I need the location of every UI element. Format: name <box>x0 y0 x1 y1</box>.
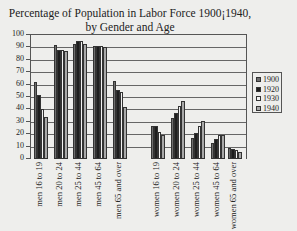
legend-item: 1930 <box>256 94 281 104</box>
bar-1940 <box>161 135 164 159</box>
x-tick-label: men 45 to 64 <box>94 162 103 207</box>
chart-subtitle: by Gender and Age <box>0 20 260 34</box>
x-tick-label: women 16 to 19 <box>152 162 161 217</box>
y-tick-mark <box>26 84 30 85</box>
y-tick-label: 30 <box>0 117 24 125</box>
bar-1940 <box>103 47 106 159</box>
x-tick-label: women 45 to 64 <box>212 162 221 217</box>
bar-1940 <box>238 152 241 159</box>
x-tick-label: men 25 to 44 <box>74 162 83 207</box>
y-tick-label: 40 <box>0 104 24 112</box>
bar-1940 <box>221 135 224 159</box>
x-tick-label: men 65 and over <box>114 162 123 219</box>
y-tick-label: 70 <box>0 67 24 75</box>
legend-swatch <box>256 106 261 111</box>
x-tick-label: women 25 to 44 <box>192 162 201 217</box>
legend-item: 1900 <box>256 75 281 85</box>
x-tick-label: men 20 to 24 <box>55 162 64 207</box>
y-tick-label: 60 <box>0 80 24 88</box>
y-tick-label: 0 <box>0 154 24 162</box>
bar-1940 <box>44 117 47 159</box>
y-tick-mark <box>26 46 30 47</box>
plot-area <box>30 34 247 159</box>
bar-1940 <box>181 101 184 159</box>
y-tick-label: 90 <box>0 42 24 50</box>
y-tick-mark <box>26 34 30 35</box>
bar-1940 <box>83 44 86 159</box>
legend-item: 1920 <box>256 85 281 95</box>
chart-title-line1: Percentage of Population in Labor Force … <box>0 6 260 20</box>
bar-1940 <box>123 107 126 159</box>
legend-label: 1900 <box>263 75 279 85</box>
y-tick-label: 80 <box>0 55 24 63</box>
y-tick-label: 20 <box>0 129 24 137</box>
y-tick-mark <box>26 59 30 60</box>
legend-label: 1920 <box>263 85 279 95</box>
y-tick-mark <box>26 71 30 72</box>
bar-1940 <box>201 121 204 159</box>
y-tick-mark <box>26 121 30 122</box>
y-tick-label: 50 <box>0 92 24 100</box>
x-tick-label: men 16 to 19 <box>35 162 44 207</box>
y-tick-mark <box>26 146 30 147</box>
legend: 1900192019301940 <box>252 72 282 113</box>
x-tick-label: women 65 and over <box>229 162 238 229</box>
y-tick-mark <box>26 133 30 134</box>
legend-item: 1940 <box>256 104 281 114</box>
y-tick-label: 100 <box>0 30 24 38</box>
gridline <box>31 47 246 48</box>
chart-title: Percentage of Population in Labor Force … <box>0 6 260 34</box>
legend-swatch <box>256 77 261 82</box>
legend-swatch <box>256 96 261 101</box>
legend-label: 1930 <box>263 94 279 104</box>
y-tick-mark <box>26 96 30 97</box>
x-tick-label: women 20 to 24 <box>172 162 181 217</box>
y-tick-mark <box>26 158 30 159</box>
legend-label: 1940 <box>263 104 279 114</box>
y-tick-mark <box>26 108 30 109</box>
y-tick-label: 10 <box>0 142 24 150</box>
legend-swatch <box>256 87 261 92</box>
bar-1940 <box>64 51 67 159</box>
